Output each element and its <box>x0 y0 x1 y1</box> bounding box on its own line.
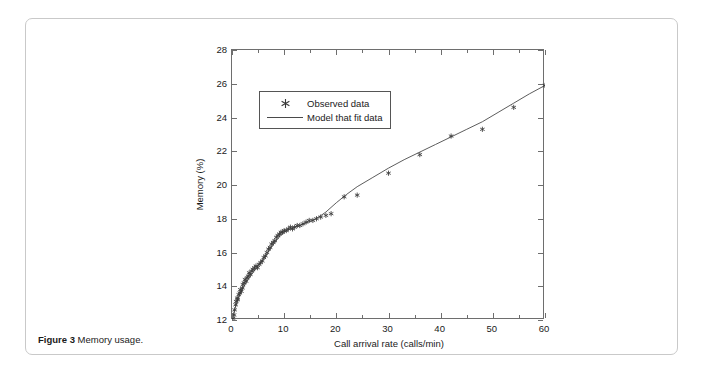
y-axis-tick-label: 16 <box>207 246 227 257</box>
x-axis-tick <box>545 50 546 55</box>
y-axis-tick-label: 12 <box>207 314 227 325</box>
x-axis-minor-tick <box>362 50 363 53</box>
x-axis-tick <box>336 313 337 318</box>
y-axis-tick <box>538 84 543 85</box>
x-axis-minor-tick <box>519 50 520 53</box>
x-axis-minor-tick <box>310 50 311 53</box>
y-axis-tick-label: 14 <box>207 280 227 291</box>
legend-item-observed-data: Observed data <box>265 96 383 110</box>
y-axis-tick <box>538 253 543 254</box>
figure-panel: Observed data Model that fit data Call a… <box>25 18 678 355</box>
figure-caption: Figure 3 Memory usage. <box>38 334 143 345</box>
y-axis-tick <box>232 185 237 186</box>
x-axis-tick <box>545 313 546 318</box>
x-axis-tick <box>389 50 390 55</box>
y-axis-tick-label: 26 <box>207 77 227 88</box>
data-point-marker <box>298 223 303 228</box>
legend-label-observed-data: Observed data <box>307 98 369 109</box>
y-axis-tick <box>538 118 543 119</box>
x-axis-minor-tick <box>467 315 468 318</box>
x-axis-minor-tick <box>310 315 311 318</box>
x-axis-tick-label: 10 <box>278 323 289 334</box>
x-axis-tick-label: 20 <box>330 323 341 334</box>
x-axis-tick-label: 0 <box>228 323 233 334</box>
x-axis-minor-tick <box>467 50 468 53</box>
data-point-marker <box>329 211 334 216</box>
x-axis-tick <box>441 313 442 318</box>
y-axis-label: Memory (%) <box>194 159 205 211</box>
x-axis-tick <box>493 313 494 318</box>
x-axis-tick-label: 30 <box>382 323 393 334</box>
legend-label-model-fit: Model that fit data <box>307 112 383 123</box>
y-axis-tick-label: 24 <box>207 111 227 122</box>
data-point-marker <box>386 171 391 176</box>
y-axis-tick <box>232 286 237 287</box>
legend-item-model-fit: Model that fit data <box>265 110 383 124</box>
y-axis-tick <box>232 151 237 152</box>
data-point-marker <box>355 193 360 198</box>
data-point-marker <box>232 307 237 312</box>
y-axis-tick <box>538 286 543 287</box>
chart-plot-area: Observed data Model that fit data Call a… <box>204 31 574 331</box>
data-point-marker <box>543 83 545 88</box>
y-axis-tick <box>232 219 237 220</box>
chart-axes-box <box>231 49 544 319</box>
x-axis-tick <box>441 50 442 55</box>
x-axis-minor-tick <box>519 315 520 318</box>
x-axis-tick <box>284 313 285 318</box>
y-axis-tick <box>232 84 237 85</box>
y-axis-tick-label: 20 <box>207 179 227 190</box>
x-axis-tick <box>232 313 233 318</box>
y-axis-tick <box>538 219 543 220</box>
y-axis-tick <box>538 50 543 51</box>
figure-caption-label: Figure 3 <box>38 334 75 345</box>
y-axis-tick-label: 28 <box>207 44 227 55</box>
figure-caption-text: Memory usage. <box>75 334 143 345</box>
x-axis-minor-tick <box>362 315 363 318</box>
x-axis-tick-label: 40 <box>434 323 445 334</box>
x-axis-tick-label: 50 <box>487 323 498 334</box>
x-axis-minor-tick <box>415 50 416 53</box>
y-axis-tick <box>538 185 543 186</box>
y-axis-tick <box>538 320 543 321</box>
line-sample-icon <box>265 117 305 118</box>
x-axis-minor-tick <box>258 315 259 318</box>
star-marker-icon <box>265 98 305 109</box>
y-axis-tick <box>538 151 543 152</box>
y-axis-tick <box>232 118 237 119</box>
x-axis-tick <box>389 313 390 318</box>
x-axis-tick <box>284 50 285 55</box>
chart-legend: Observed data Model that fit data <box>259 91 391 129</box>
x-axis-tick <box>493 50 494 55</box>
y-axis-tick <box>232 50 237 51</box>
y-axis-tick <box>232 253 237 254</box>
y-axis-tick <box>232 320 237 321</box>
y-axis-tick-label: 18 <box>207 212 227 223</box>
x-axis-minor-tick <box>258 50 259 53</box>
data-point-marker <box>480 127 485 132</box>
x-axis-label: Call arrival rate (calls/min) <box>334 338 444 349</box>
x-axis-minor-tick <box>415 315 416 318</box>
data-point-marker <box>511 105 516 110</box>
x-axis-tick-label: 60 <box>539 323 550 334</box>
y-axis-tick-label: 22 <box>207 145 227 156</box>
x-axis-tick <box>336 50 337 55</box>
